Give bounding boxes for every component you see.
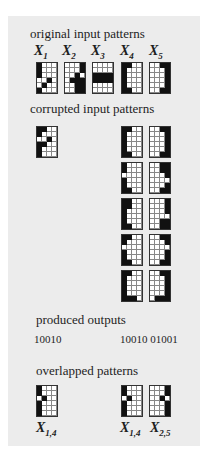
heading-produced-outputs: produced outputs [36, 313, 126, 327]
label-x2: X2 [62, 44, 76, 63]
empty-cell [137, 188, 142, 193]
filled-cell [165, 411, 170, 416]
label-x14-right: X1,4 [120, 421, 141, 440]
filled-cell [165, 260, 170, 265]
empty-cell [52, 88, 57, 93]
corrupted-grid-left [36, 126, 58, 158]
pattern-grid-x4 [121, 62, 143, 94]
corrupted-grid [149, 270, 171, 302]
pattern-grid-x1 [36, 62, 58, 94]
empty-cell [137, 260, 142, 265]
empty-cell [52, 411, 57, 416]
corrupted-grid [149, 162, 171, 194]
corrupted-grid [121, 162, 143, 194]
heading-original-input-patterns: original input patterns [30, 27, 145, 41]
label-x4: X4 [120, 44, 134, 63]
filled-cell [165, 188, 170, 193]
filled-cell [165, 88, 170, 93]
pattern-grid-x5 [149, 62, 171, 94]
filled-cell [165, 224, 170, 229]
heading-corrupted-input-patterns: corrupted input patterns [30, 102, 154, 116]
corrupted-grid [149, 126, 171, 158]
corrupted-grid [121, 126, 143, 158]
filled-cell [165, 296, 170, 301]
label-x1: X1 [34, 44, 48, 63]
empty-cell [52, 152, 57, 157]
corrupted-grid [149, 234, 171, 266]
empty-cell [137, 88, 142, 93]
empty-cell [108, 88, 113, 93]
corrupted-grid [149, 198, 171, 230]
empty-cell [137, 296, 142, 301]
corrupted-grid [121, 234, 143, 266]
corrupted-grid [121, 270, 143, 302]
pattern-grid-x2 [64, 62, 86, 94]
overlapped-grid-x25 [149, 385, 171, 417]
output-right: 10010 01001 [120, 333, 178, 345]
filled-cell [165, 152, 170, 157]
filled-cell [80, 88, 85, 93]
label-x5: X5 [149, 44, 163, 63]
label-x3: X3 [91, 44, 105, 63]
empty-cell [137, 411, 142, 416]
label-x25: X2,5 [150, 421, 171, 440]
output-left: 10010 [34, 333, 62, 345]
empty-cell [137, 152, 142, 157]
empty-cell [137, 224, 142, 229]
pattern-grid-x3 [92, 62, 114, 94]
overlapped-grid-x14-left [36, 385, 58, 417]
corrupted-grid [121, 198, 143, 230]
overlapped-grid-x14-right [121, 385, 143, 417]
label-x14-left: X1,4 [36, 421, 57, 440]
heading-overlapped-patterns: overlapped patterns [36, 364, 138, 378]
